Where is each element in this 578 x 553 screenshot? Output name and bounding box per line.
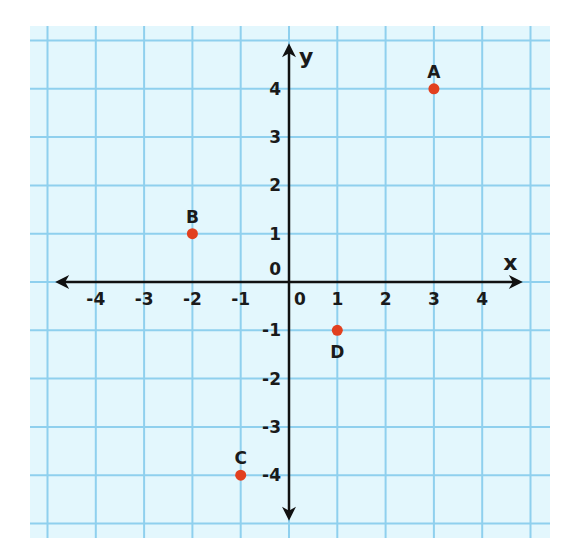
x-tick-label: 1 bbox=[331, 289, 343, 309]
y-axis-label: y bbox=[299, 44, 313, 69]
x-tick-label: 4 bbox=[476, 289, 488, 309]
y-tick-label: 2 bbox=[269, 175, 281, 195]
point-marker bbox=[428, 83, 439, 94]
point-c: C bbox=[234, 448, 246, 481]
point-d: D bbox=[330, 325, 344, 363]
y-tick-label: 3 bbox=[269, 127, 281, 147]
point-label: A bbox=[427, 62, 441, 82]
point-label: D bbox=[330, 342, 344, 362]
point-label: C bbox=[234, 448, 246, 468]
y-tick-label: -3 bbox=[262, 417, 281, 437]
x-tick-label: 0 bbox=[294, 289, 306, 309]
point-label: B bbox=[186, 207, 199, 227]
y-tick-label: 0 bbox=[269, 259, 281, 279]
y-tick-label: -2 bbox=[262, 369, 281, 389]
point-b: B bbox=[186, 207, 199, 240]
point-marker bbox=[332, 325, 343, 336]
x-tick-label: -2 bbox=[183, 289, 202, 309]
y-tick-label: -4 bbox=[262, 465, 281, 485]
x-tick-label: 3 bbox=[428, 289, 440, 309]
x-tick-label: -4 bbox=[86, 289, 105, 309]
point-marker bbox=[235, 470, 246, 481]
y-tick-label: -1 bbox=[262, 320, 281, 340]
x-tick-label: -1 bbox=[231, 289, 250, 309]
y-tick-label: 4 bbox=[269, 79, 281, 99]
x-tick-label: -3 bbox=[135, 289, 154, 309]
point-a: A bbox=[427, 62, 441, 95]
x-tick-label: 2 bbox=[380, 289, 392, 309]
point-marker bbox=[187, 228, 198, 239]
coordinate-plane: yx -4-3-2-10123443210-1-2-3-4 ABCD bbox=[0, 0, 578, 553]
y-tick-label: 1 bbox=[269, 224, 281, 244]
x-axis-label: x bbox=[503, 250, 517, 275]
